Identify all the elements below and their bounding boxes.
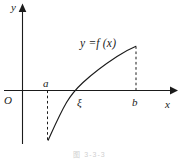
y-axis <box>19 4 27 145</box>
curve-f-of-x <box>48 46 136 140</box>
y-axis-arrowhead <box>19 4 27 13</box>
x-axis-arrowhead <box>170 87 178 95</box>
curve-equation-label: y =f (x) <box>80 38 116 50</box>
figure-caption: 图 3-3-3 <box>0 150 179 159</box>
origin-label: O <box>4 95 12 106</box>
function-graph <box>0 0 179 159</box>
point-label-b: b <box>132 97 138 108</box>
y-axis-label: y <box>11 2 16 13</box>
point-label-a: a <box>43 78 49 89</box>
point-label-xi: ξ <box>77 97 82 108</box>
x-axis <box>4 87 178 95</box>
x-axis-label: x <box>165 99 170 110</box>
figure-container: y x O a ξ b y =f (x) 图 3-3-3 <box>0 0 179 159</box>
